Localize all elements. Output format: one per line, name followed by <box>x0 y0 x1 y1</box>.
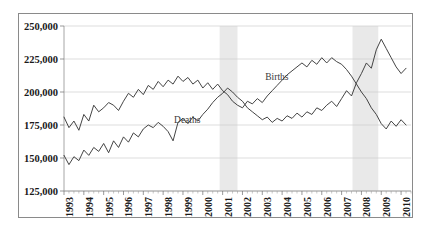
y-tick-label: 200,000 <box>24 87 58 98</box>
x-tick-label-1997: 1997 <box>143 197 154 217</box>
x-tick-label-2003: 2003 <box>262 197 273 217</box>
x-tick-label-2004: 2004 <box>282 197 293 217</box>
x-tick-label-2001: 2001 <box>223 197 234 217</box>
y-tick-label: 175,000 <box>24 120 58 131</box>
x-tick-label-2005: 2005 <box>302 197 313 217</box>
x-tick-label-1999: 1999 <box>183 197 194 217</box>
band-recession-2001 <box>220 26 238 191</box>
x-axis <box>64 191 411 195</box>
x-tick-label-1994: 1994 <box>84 197 95 217</box>
y-axis <box>60 26 64 191</box>
band-recession-2008 <box>353 26 379 191</box>
shaded-recession-bands <box>220 26 379 191</box>
x-tick-label-2008: 2008 <box>361 197 372 217</box>
x-tick-label-2002: 2002 <box>242 197 253 217</box>
x-tick-label-2010: 2010 <box>401 197 412 217</box>
y-tick-label: 250,000 <box>24 21 58 32</box>
y-tick-label: 225,000 <box>24 54 58 65</box>
x-tick-label-2006: 2006 <box>322 197 333 217</box>
x-tick-label-1993: 1993 <box>64 197 75 217</box>
births-deaths-line-chart: 125,000150,000175,000200,000225,000250,0… <box>19 14 412 217</box>
x-tick-label-1995: 1995 <box>104 197 115 217</box>
x-tick-labels: 1993199419951996199719981999200020012002… <box>64 197 412 217</box>
y-tick-label: 150,000 <box>24 153 58 164</box>
chart-figure: 125,000150,000175,000200,000225,000250,0… <box>18 13 413 218</box>
series-annotation-births: Births <box>265 72 289 82</box>
y-tick-label: 125,000 <box>24 186 58 197</box>
x-tick-label-2007: 2007 <box>342 197 353 217</box>
x-tick-label-1996: 1996 <box>123 197 134 217</box>
x-tick-label-1998: 1998 <box>163 197 174 217</box>
y-tick-labels: 125,000150,000175,000200,000225,000250,0… <box>24 21 58 197</box>
x-tick-label-2009: 2009 <box>381 197 392 217</box>
x-tick-label-2000: 2000 <box>203 197 214 217</box>
series-annotation-deaths: Deaths <box>174 115 201 125</box>
